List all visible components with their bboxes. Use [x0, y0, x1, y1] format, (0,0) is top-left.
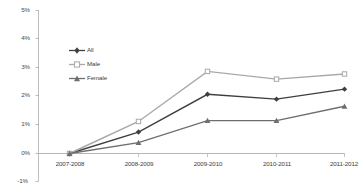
series-female	[67, 103, 348, 156]
datapoint-male-2008-2009	[136, 119, 140, 123]
xtick-label-2008-2009: 2008-2009	[107, 161, 171, 167]
legend-swatch-all	[69, 46, 85, 55]
legend-label-all: All	[87, 47, 94, 53]
datapoint-all-2009-2010	[205, 92, 210, 97]
legend-label-female: Female	[87, 75, 107, 81]
legend-item-female[interactable]: Female	[69, 73, 107, 83]
datapoint-male-2011-2012	[342, 72, 346, 76]
datapoint-all-2011-2012	[342, 86, 347, 91]
ytick-label-5: 5%	[8, 7, 30, 13]
legend-item-all[interactable]: All	[69, 45, 94, 55]
datapoint-male-2010-2011	[274, 77, 278, 81]
xtick-label-2010-2011: 2010-2011	[245, 161, 309, 167]
data-series-layer	[67, 69, 348, 156]
series-male	[67, 69, 346, 155]
ytick-label-neg1: -1%	[6, 178, 28, 184]
xtick-label-2009-2010: 2009-2010	[176, 161, 240, 167]
xtick-label-2011-2012: 2011-2012	[312, 161, 363, 167]
ytick-label-1: 1%	[8, 121, 30, 127]
ytick-label-3: 3%	[8, 64, 30, 70]
ytick-label-4: 4%	[8, 35, 30, 41]
xtick-label-2007-2008: 2007-2008	[38, 161, 102, 167]
datapoint-all-2008-2009	[136, 129, 141, 134]
legend-item-male[interactable]: Male	[69, 59, 100, 69]
x-tick-marks	[70, 154, 345, 158]
datapoint-all-2010-2011	[274, 96, 279, 101]
ytick-label-2: 2%	[8, 92, 30, 98]
legend-swatch-male	[69, 60, 85, 69]
series-line-female	[70, 106, 345, 153]
legend-swatch-female	[69, 74, 85, 83]
ytick-label-0: 0%	[8, 150, 30, 156]
datapoint-male-2009-2010	[205, 69, 209, 73]
legend-label-male: Male	[87, 61, 100, 67]
